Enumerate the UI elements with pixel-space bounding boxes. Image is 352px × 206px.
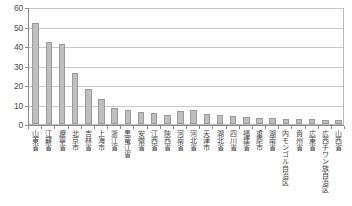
gridline <box>29 47 343 48</box>
bar <box>125 110 132 124</box>
x-tick-mark <box>265 126 266 129</box>
y-tick-label: 30 <box>0 63 23 72</box>
x-tick-mark <box>173 126 174 129</box>
category-label: 江蘇省 <box>44 130 51 151</box>
x-tick-mark <box>107 126 108 129</box>
x-tick-mark <box>41 126 42 129</box>
bar <box>177 111 184 124</box>
x-tick-mark <box>160 126 161 129</box>
category-label: 黒竜江省 <box>123 130 130 158</box>
bar-chart: 0102030405060 山東省江蘇省遼寧省北京市吉林省上海市浙江省黒竜江省安… <box>0 0 352 206</box>
bar <box>59 44 66 124</box>
category-label: 重慶市 <box>255 130 262 151</box>
category-label: 広東省 <box>307 130 314 151</box>
gridline <box>29 8 343 9</box>
bar <box>243 117 250 124</box>
category-label: 山西省 <box>334 130 341 151</box>
x-tick-mark <box>305 126 306 129</box>
y-tick-label: 60 <box>0 4 23 13</box>
category-label: 遼寧省 <box>57 130 64 151</box>
y-tick-label: 40 <box>0 43 23 52</box>
x-tick-mark <box>226 126 227 129</box>
y-tick-mark <box>25 86 28 87</box>
category-label: 広西チワン族自治区 <box>321 130 328 193</box>
category-label: 貴州省 <box>294 130 301 151</box>
x-tick-mark <box>239 126 240 129</box>
category-label: 浙江省 <box>110 130 117 151</box>
y-tick-label: 0 <box>0 121 23 130</box>
category-label: 内モンゴル自治区 <box>281 130 288 186</box>
category-label: 陝西省 <box>163 130 170 151</box>
bar <box>256 118 263 124</box>
y-tick-mark <box>25 67 28 68</box>
bar <box>98 99 105 124</box>
bar <box>151 113 158 124</box>
y-tick-label: 20 <box>0 82 23 91</box>
x-tick-mark <box>199 126 200 129</box>
bar <box>32 23 39 124</box>
bar <box>46 42 53 124</box>
category-label: 安徽省 <box>136 130 143 151</box>
category-label: 湖南省 <box>268 130 275 151</box>
y-tick-mark <box>25 8 28 9</box>
bar <box>322 120 329 124</box>
bar <box>138 112 145 124</box>
y-tick-mark <box>25 106 28 107</box>
bar <box>296 119 303 124</box>
y-axis-line <box>28 8 29 125</box>
bar <box>164 115 171 124</box>
bar <box>283 119 290 124</box>
category-label: 北京市 <box>70 130 77 151</box>
category-label: 湖北省 <box>215 130 222 151</box>
y-tick-mark <box>25 47 28 48</box>
x-tick-mark <box>94 126 95 129</box>
y-tick-mark <box>25 28 28 29</box>
x-tick-mark <box>81 126 82 129</box>
category-label: 江西省 <box>149 130 156 151</box>
x-tick-mark <box>133 126 134 129</box>
x-tick-mark <box>344 126 345 129</box>
gridline <box>29 28 343 29</box>
x-tick-mark <box>331 126 332 129</box>
plot-area <box>28 8 344 125</box>
bar <box>269 118 276 124</box>
x-tick-mark <box>54 126 55 129</box>
category-label: 福建省 <box>242 130 249 151</box>
bar <box>230 116 237 124</box>
category-label: 山東省 <box>31 130 38 151</box>
x-tick-mark <box>212 126 213 129</box>
x-tick-mark <box>147 126 148 129</box>
x-tick-mark <box>120 126 121 129</box>
category-label: 四川省 <box>228 130 235 151</box>
category-label: 上海市 <box>97 130 104 151</box>
x-tick-mark <box>278 126 279 129</box>
x-tick-mark <box>318 126 319 129</box>
x-tick-mark <box>252 126 253 129</box>
y-tick-label: 50 <box>0 24 23 33</box>
category-label: 天津市 <box>202 130 209 151</box>
bar <box>217 115 224 124</box>
x-tick-mark <box>68 126 69 129</box>
x-tick-mark <box>28 126 29 129</box>
bar <box>190 110 197 124</box>
bar <box>204 114 211 124</box>
x-tick-mark <box>186 126 187 129</box>
category-label: 吉林省 <box>84 130 91 151</box>
bar <box>72 73 79 124</box>
y-tick-label: 10 <box>0 102 23 111</box>
category-label: 河南省 <box>176 130 183 151</box>
x-tick-mark <box>291 126 292 129</box>
gridline <box>29 67 343 68</box>
bar <box>335 120 342 124</box>
bar <box>111 108 118 124</box>
category-label: 河北省 <box>189 130 196 151</box>
bar <box>309 119 316 124</box>
bar <box>85 89 92 124</box>
